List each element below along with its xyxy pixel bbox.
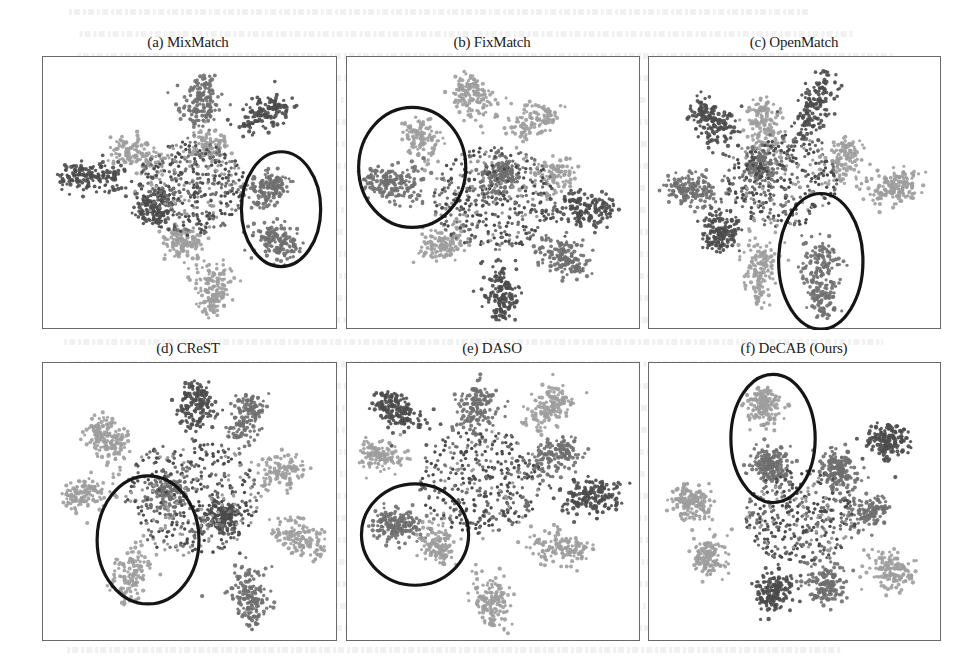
- data-point: [118, 465, 122, 469]
- data-point: [779, 107, 782, 110]
- data-point: [140, 554, 143, 557]
- data-point: [513, 305, 517, 309]
- data-point: [709, 490, 712, 493]
- data-point: [813, 175, 816, 178]
- data-point: [200, 247, 204, 251]
- data-point: [410, 184, 414, 188]
- data-point: [890, 191, 894, 195]
- data-point: [215, 267, 219, 271]
- data-point: [409, 205, 413, 209]
- data-point: [766, 538, 769, 541]
- data-point: [201, 408, 205, 412]
- data-point: [443, 235, 446, 238]
- data-point: [191, 549, 194, 552]
- data-point: [315, 536, 318, 539]
- data-point: [556, 525, 560, 529]
- data-point: [167, 185, 170, 188]
- data-point: [248, 568, 251, 571]
- data-point: [741, 205, 744, 208]
- data-point: [496, 407, 500, 411]
- data-point: [289, 486, 293, 490]
- data-point: [883, 439, 886, 442]
- data-point: [541, 120, 545, 124]
- data-point: [383, 468, 386, 471]
- panel-decab: [648, 362, 941, 641]
- data-point: [275, 258, 279, 262]
- data-point: [849, 149, 852, 152]
- data-point: [179, 230, 182, 233]
- data-point: [793, 223, 796, 226]
- data-point: [770, 531, 773, 534]
- data-point: [902, 177, 905, 180]
- data-point: [244, 399, 247, 402]
- data-point: [756, 146, 759, 149]
- tsne-plot-openmatch: [649, 57, 942, 330]
- data-point: [551, 212, 554, 215]
- data-point: [396, 161, 400, 165]
- data-point: [245, 103, 248, 106]
- data-point: [750, 260, 754, 264]
- data-point: [517, 466, 520, 469]
- data-point: [447, 550, 451, 554]
- data-point: [811, 484, 814, 487]
- data-point: [528, 546, 531, 549]
- data-point: [248, 612, 251, 615]
- data-point: [665, 184, 669, 188]
- data-point: [216, 95, 220, 99]
- data-point: [436, 513, 439, 516]
- data-point: [191, 100, 194, 103]
- data-point: [391, 532, 394, 535]
- data-point: [462, 207, 465, 210]
- data-point: [256, 119, 260, 123]
- data-point: [539, 443, 543, 447]
- data-point: [780, 463, 783, 466]
- data-point: [542, 192, 545, 195]
- data-point: [789, 558, 792, 561]
- data-point: [539, 458, 542, 461]
- data-point: [249, 436, 252, 439]
- data-point: [191, 256, 195, 260]
- data-point: [177, 183, 180, 186]
- data-point: [717, 544, 720, 547]
- data-point: [598, 220, 602, 224]
- data-point: [840, 599, 844, 603]
- data-point: [381, 464, 384, 467]
- data-point: [420, 130, 424, 134]
- data-point: [196, 200, 199, 203]
- data-point: [167, 228, 170, 231]
- data-point: [475, 577, 479, 581]
- data-point: [485, 217, 488, 220]
- data-point: [782, 204, 785, 207]
- data-point: [461, 464, 464, 467]
- data-point: [474, 119, 478, 123]
- cluster-4: [247, 448, 312, 498]
- data-point: [117, 144, 121, 148]
- data-point: [490, 149, 493, 152]
- data-point: [415, 554, 419, 558]
- data-point: [762, 206, 765, 209]
- data-point: [832, 531, 835, 534]
- data-point: [813, 246, 817, 250]
- data-point: [428, 133, 431, 136]
- data-point: [136, 471, 139, 474]
- data-point: [290, 526, 293, 529]
- data-point: [103, 190, 106, 193]
- data-point: [507, 240, 510, 243]
- data-point: [506, 489, 509, 492]
- data-point: [534, 407, 537, 410]
- data-point: [577, 485, 581, 489]
- data-point: [460, 83, 463, 86]
- data-point: [553, 457, 557, 461]
- data-point: [104, 447, 108, 451]
- data-point: [491, 443, 494, 446]
- data-point: [375, 179, 379, 183]
- data-point: [449, 506, 452, 509]
- data-point: [537, 423, 540, 426]
- data-point: [494, 410, 498, 414]
- data-point: [179, 543, 182, 546]
- data-point: [75, 180, 79, 184]
- data-point: [457, 431, 460, 434]
- data-point: [269, 480, 272, 483]
- data-point: [207, 269, 211, 273]
- data-point: [251, 133, 254, 136]
